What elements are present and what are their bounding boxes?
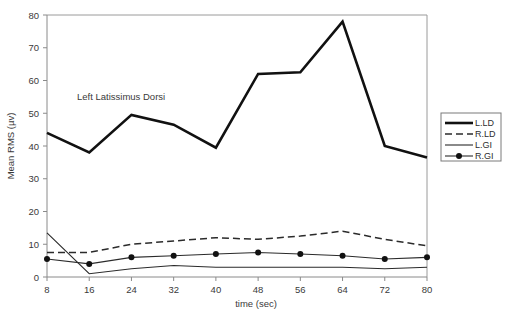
plot-frame: [47, 15, 427, 277]
x-tick-label: 16: [84, 284, 95, 295]
y-tick-label: 20: [28, 206, 39, 217]
series-annotation: Left Latissimus Dorsi: [77, 91, 165, 102]
x-tick-label: 32: [168, 284, 179, 295]
x-tick-label: 48: [253, 284, 264, 295]
legend-label-lgi: L.GI: [475, 140, 492, 150]
x-axis-title: time (sec): [235, 298, 277, 309]
x-tick-label: 64: [337, 284, 348, 295]
series-line-rld: [47, 231, 427, 252]
data-series-group: [44, 22, 430, 274]
legend: L.LDR.LDL.GIR.GI: [441, 113, 501, 161]
series-marker-rgi: [213, 251, 219, 257]
series-marker-rgi: [44, 256, 50, 262]
x-tick-label: 40: [211, 284, 222, 295]
series-marker-rgi: [171, 253, 177, 259]
y-axis-title: Mean RMS (µv): [5, 113, 16, 180]
y-tick-label: 40: [28, 141, 39, 152]
x-tick-label: 24: [126, 284, 137, 295]
y-tick-label: 60: [28, 75, 39, 86]
y-tick-label: 80: [28, 10, 39, 21]
legend-marker-rgi: [456, 153, 462, 159]
legend-label-lld: L.LD: [475, 118, 495, 128]
x-tick-label: 56: [295, 284, 306, 295]
y-tick-label: 70: [28, 42, 39, 53]
chart-container: 01020304050607080 8162432404856647280 ti…: [0, 0, 506, 315]
x-axis: 8162432404856647280: [44, 277, 432, 295]
series-marker-rgi: [424, 254, 430, 260]
series-marker-rgi: [340, 253, 346, 259]
series-marker-rgi: [86, 261, 92, 267]
x-tick-label: 72: [379, 284, 390, 295]
y-tick-label: 0: [34, 272, 39, 283]
legend-label-rgi: R.GI: [475, 151, 494, 161]
x-tick-label: 8: [44, 284, 49, 295]
y-tick-label: 50: [28, 108, 39, 119]
y-tick-label: 30: [28, 173, 39, 184]
series-marker-rgi: [128, 254, 134, 260]
series-line-rgi: [47, 252, 427, 263]
series-marker-rgi: [297, 251, 303, 257]
y-tick-label: 10: [28, 239, 39, 250]
series-marker-rgi: [255, 249, 261, 255]
x-tick-label: 80: [422, 284, 433, 295]
legend-label-rld: R.LD: [475, 129, 496, 139]
y-axis: 01020304050607080: [28, 10, 47, 283]
series-marker-rgi: [382, 256, 388, 262]
series-line-lld: [47, 22, 427, 158]
line-chart: 01020304050607080 8162432404856647280 ti…: [0, 0, 506, 315]
